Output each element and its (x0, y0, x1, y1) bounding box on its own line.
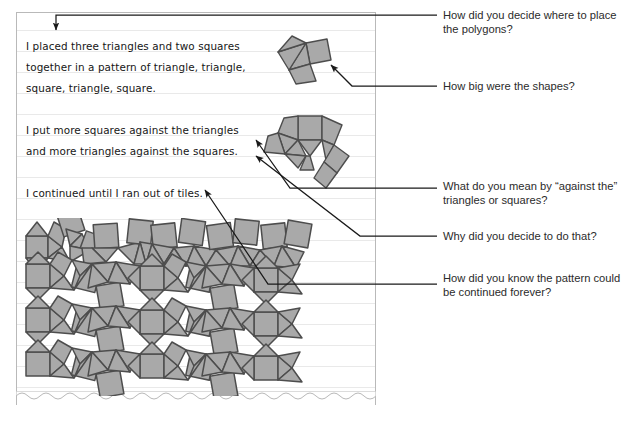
snub-square-tessellation (22, 218, 320, 396)
extended-polygon-arc (254, 110, 360, 192)
question-5: How did you know the pattern could be co… (443, 271, 625, 299)
five-polygon-cluster (270, 30, 340, 92)
handwriting-line: I continued until I ran out of tiles. (26, 187, 203, 199)
notebook-page: I placed three triangles and two squares… (16, 12, 376, 405)
handwriting-line: and more triangles against the squares. (26, 145, 238, 157)
handwriting-line: I placed three triangles and two squares (26, 40, 240, 52)
question-4: Why did you decide to do that? (443, 229, 625, 243)
handwriting-line: square, triangle, square. (26, 82, 156, 94)
question-1: How did you decide where to place the po… (443, 8, 625, 36)
question-3: What do you mean by “against the” triang… (443, 179, 625, 207)
handwriting-line: I put more squares against the triangles (26, 124, 239, 136)
handwriting-line: together in a pattern of triangle, trian… (26, 61, 246, 73)
question-2: How big were the shapes? (443, 79, 625, 93)
